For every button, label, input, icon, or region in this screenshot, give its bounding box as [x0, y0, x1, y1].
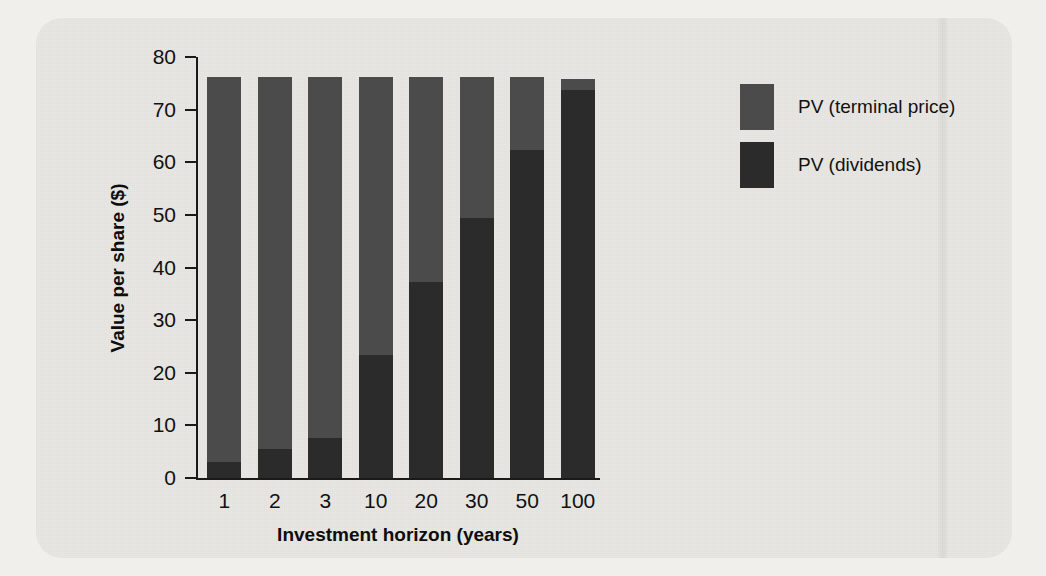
y-tick-mark [185, 214, 196, 216]
bar-segment-terminal-price [207, 77, 241, 462]
bar-segment-dividends [359, 355, 393, 478]
bar-segment-terminal-price [258, 77, 292, 449]
bar-segment-dividends [409, 282, 443, 478]
y-tick-mark [185, 161, 196, 163]
x-tick-label: 30 [465, 489, 488, 513]
x-tick-label: 50 [516, 489, 539, 513]
legend-swatch [740, 84, 774, 130]
bar-segment-terminal-price [460, 77, 494, 218]
y-tick-label: 30 [122, 308, 176, 332]
x-axis-line [196, 478, 600, 480]
bar-column [409, 77, 443, 478]
y-tick-label: 80 [122, 45, 176, 69]
legend-item: PV (terminal price) [740, 78, 1000, 136]
bar-segment-dividends [308, 438, 342, 478]
y-tick-label: 60 [122, 150, 176, 174]
y-tick-label: 20 [122, 361, 176, 385]
x-tick-label: 3 [319, 489, 331, 513]
y-tick-mark [185, 319, 196, 321]
y-tick-label: 50 [122, 203, 176, 227]
bar-segment-dividends [207, 462, 241, 478]
bar-segment-terminal-price [359, 77, 393, 355]
x-tick-label: 10 [364, 489, 387, 513]
bar-column [510, 77, 544, 478]
stacked-bar-chart: Value per share ($) Investment horizon (… [0, 0, 1046, 576]
bar-column [561, 79, 595, 478]
chart-legend: PV (terminal price)PV (dividends) [740, 78, 1000, 194]
bar-segment-dividends [258, 449, 292, 478]
y-tick-label: 70 [122, 98, 176, 122]
y-tick-mark [185, 477, 196, 479]
bar-segment-terminal-price [409, 77, 443, 282]
bar-segment-terminal-price [561, 79, 595, 90]
plot-area: 01020304050607080 12310203050100 [196, 57, 606, 478]
y-tick-label: 0 [122, 466, 176, 490]
y-tick-label: 10 [122, 413, 176, 437]
bar-segment-dividends [561, 90, 595, 478]
bar-column [258, 77, 292, 478]
y-tick-mark [185, 372, 196, 374]
legend-label: PV (dividends) [798, 154, 922, 176]
bar-column [359, 77, 393, 478]
bar-segment-dividends [460, 218, 494, 478]
bar-group [196, 57, 600, 478]
x-tick-label: 1 [218, 489, 230, 513]
figure-page: Value per share ($) Investment horizon (… [0, 0, 1046, 576]
legend-label: PV (terminal price) [798, 96, 955, 118]
x-axis-label: Investment horizon (years) [277, 524, 519, 546]
y-tick-mark [185, 56, 196, 58]
x-tick-label: 2 [269, 489, 281, 513]
bar-column [308, 77, 342, 478]
legend-swatch [740, 142, 774, 188]
y-tick-label: 40 [122, 256, 176, 280]
y-tick-mark [185, 424, 196, 426]
y-tick-mark [185, 109, 196, 111]
bar-segment-terminal-price [308, 77, 342, 438]
bar-segment-terminal-price [510, 77, 544, 150]
x-tick-label: 100 [560, 489, 595, 513]
legend-item: PV (dividends) [740, 136, 1000, 194]
y-tick-mark [185, 267, 196, 269]
x-tick-label: 20 [415, 489, 438, 513]
bar-column [460, 77, 494, 478]
bar-segment-dividends [510, 150, 544, 478]
bar-column [207, 77, 241, 478]
